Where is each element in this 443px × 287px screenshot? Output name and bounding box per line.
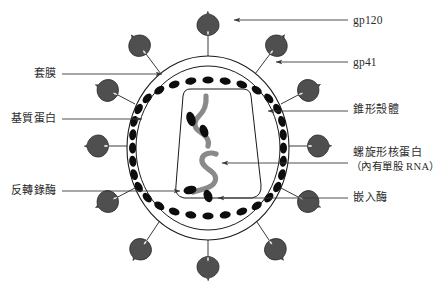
- label-gp120: gp120: [353, 13, 383, 27]
- hiv-virion-diagram: [0, 0, 443, 287]
- hiv-structure-diagram-page: gp120 gp41 錐形殼體 螺旋形核蛋白 （內有單股 RNA） 嵌入酶 套膜…: [0, 0, 443, 287]
- conical-capsid-shell: [176, 89, 261, 198]
- label-helical-nucleoprotein: 螺旋形核蛋白: [353, 146, 423, 160]
- label-helical-nucleoprotein-sub: （內有單股 RNA）: [351, 160, 440, 173]
- spike-right-upper: [281, 75, 325, 105]
- label-envelope: 套膜: [0, 67, 57, 81]
- spike-lower-right: [255, 219, 292, 267]
- spike-upper-right: [255, 28, 293, 74]
- spike-right-lower: [281, 187, 325, 217]
- label-matrix-protein: 基質蛋白: [0, 112, 57, 126]
- spike-left-lower: [91, 187, 135, 217]
- spike-right: [288, 135, 332, 157]
- label-integrase: 嵌入酶: [353, 191, 388, 205]
- spike-left: [84, 135, 128, 157]
- label-gp41: gp41: [353, 55, 377, 69]
- label-conical-capsid: 錐形殼體: [353, 103, 399, 117]
- spike-top: [197, 11, 219, 57]
- spike-left-upper: [91, 75, 135, 105]
- spike-upper-left: [123, 28, 161, 74]
- label-reverse-transcriptase: 反轉錄酶: [0, 184, 57, 198]
- spike-lower-left: [124, 219, 161, 267]
- spike-bottom: [197, 240, 219, 281]
- virion-body: [84, 11, 331, 280]
